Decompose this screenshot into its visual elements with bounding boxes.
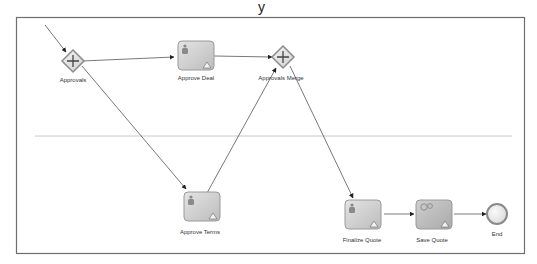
task-approve-terms[interactable]: Approve Terms bbox=[180, 192, 220, 235]
task-label: Finalize Quote bbox=[343, 237, 382, 243]
task-save-quote[interactable]: Save Quote bbox=[416, 200, 452, 243]
gateway-label: Approvals bbox=[60, 77, 87, 83]
task-label: Approve Terms bbox=[180, 229, 220, 235]
process-diagram: y Approvals Approve Deal Approv bbox=[0, 0, 537, 264]
task-approve-deal[interactable]: Approve Deal bbox=[178, 41, 214, 81]
task-finalize-quote[interactable]: Finalize Quote bbox=[343, 200, 382, 243]
end-label: End bbox=[492, 231, 503, 237]
title-fragment: y bbox=[258, 0, 265, 15]
gateway-label: Approvals Merge bbox=[258, 75, 304, 81]
task-label: Save Quote bbox=[416, 237, 448, 243]
task-label: Approve Deal bbox=[178, 75, 214, 81]
